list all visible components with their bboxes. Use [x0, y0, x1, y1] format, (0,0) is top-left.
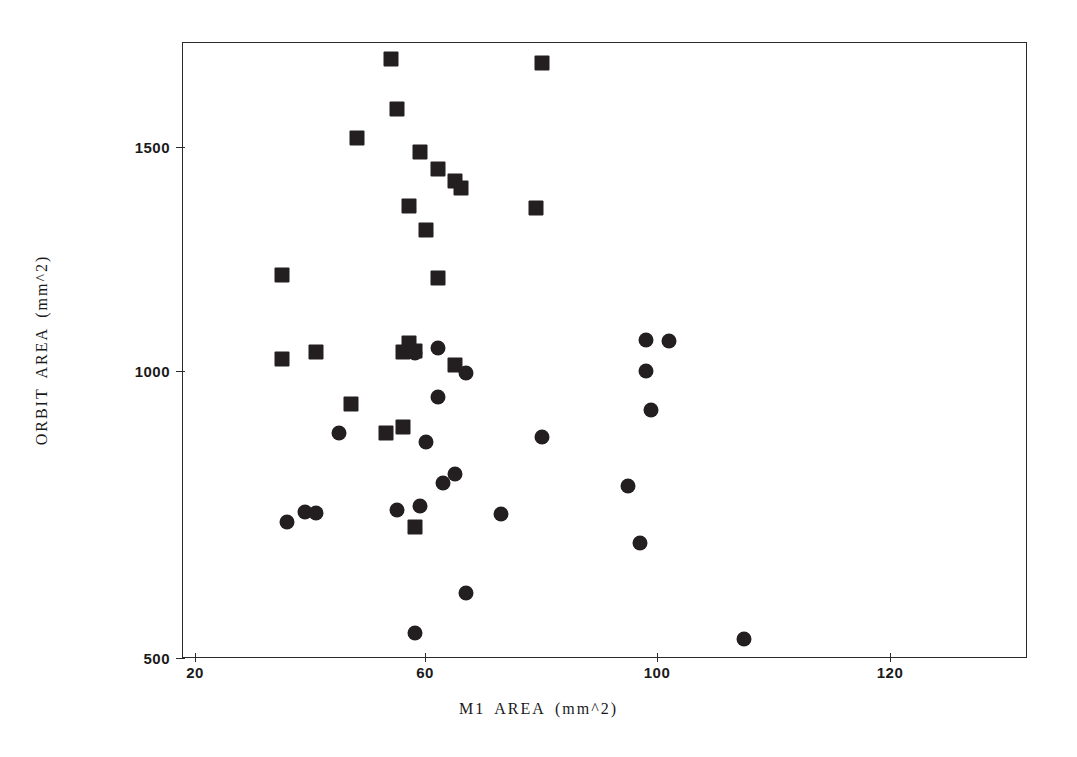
data-point-circle: [419, 434, 434, 449]
data-point-circle: [638, 333, 653, 348]
data-point-circle: [494, 507, 509, 522]
data-point-square: [395, 420, 410, 435]
y-tick-label-1500: 1500: [135, 139, 170, 156]
y-tick-label-1000: 1000: [135, 363, 170, 380]
data-point-circle: [280, 515, 295, 530]
data-point-square: [430, 270, 445, 285]
data-point-square: [309, 345, 324, 360]
data-point-square: [534, 55, 549, 70]
data-point-circle: [430, 390, 445, 405]
y-axis-title: ORBIT AREA (mm^2): [33, 255, 51, 446]
data-point-circle: [332, 425, 347, 440]
data-point-square: [349, 130, 364, 145]
data-point-square: [274, 351, 289, 366]
data-point-square: [384, 51, 399, 66]
data-point-circle: [644, 403, 659, 418]
x-tick-mark-120: [890, 653, 891, 662]
data-point-square: [413, 145, 428, 160]
y-tick-mark-1500: [176, 147, 185, 148]
data-point-square: [430, 162, 445, 177]
x-tick-label-20: 20: [186, 664, 204, 681]
data-point-circle: [632, 536, 647, 551]
data-point-square: [419, 223, 434, 238]
data-point-square: [407, 519, 422, 534]
x-tick-label-60: 60: [416, 664, 434, 681]
data-point-square: [401, 198, 416, 213]
data-point-square: [453, 180, 468, 195]
data-point-circle: [430, 341, 445, 356]
x-tick-mark-60: [425, 653, 426, 662]
x-tick-mark-100: [657, 653, 658, 662]
x-tick-label-100: 100: [644, 664, 671, 681]
data-point-circle: [447, 467, 462, 482]
scatter-plot-figure: 1500 1000 500 20 60 100 120 M1 AREA (mm^…: [0, 0, 1077, 757]
y-tick-mark-500: [176, 658, 185, 659]
y-axis-title-wrap: ORBIT AREA (mm^2): [12, 0, 72, 700]
data-point-square: [390, 102, 405, 117]
data-point-circle: [407, 626, 422, 641]
data-point-circle: [736, 632, 751, 647]
data-point-circle: [459, 586, 474, 601]
x-axis-title: M1 AREA (mm^2): [0, 700, 1077, 718]
data-point-circle: [309, 506, 324, 521]
data-point-circle: [621, 479, 636, 494]
x-tick-mark-20: [195, 653, 196, 662]
data-point-circle: [661, 333, 676, 348]
data-point-circle: [390, 502, 405, 517]
x-tick-label-120: 120: [877, 664, 904, 681]
data-point-circle: [638, 364, 653, 379]
data-point-square: [528, 200, 543, 215]
y-tick-label-500: 500: [143, 650, 170, 667]
data-point-square: [343, 397, 358, 412]
data-point-circle: [407, 345, 422, 360]
data-point-circle: [413, 498, 428, 513]
data-point-circle: [534, 429, 549, 444]
y-tick-mark-1000: [176, 371, 185, 372]
data-point-square: [378, 425, 393, 440]
data-point-square: [274, 268, 289, 283]
data-point-circle: [459, 365, 474, 380]
